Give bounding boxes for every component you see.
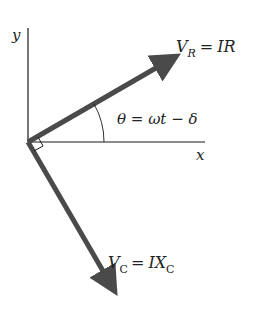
y-axis-label: y — [11, 26, 21, 44]
angle-label: θ = ωt − δ — [117, 110, 198, 128]
vr-phasor-arrow — [28, 61, 168, 142]
angle-arc — [94, 104, 104, 142]
x-axis-label: x — [196, 146, 205, 164]
vc-phasor-arrow — [28, 142, 110, 283]
vc-label: VC=IXC — [108, 253, 175, 276]
vr-label: VR=IR — [176, 37, 236, 60]
phasor-diagram: y x VR=IR θ = ωt − δ VC=IXC — [0, 0, 259, 309]
